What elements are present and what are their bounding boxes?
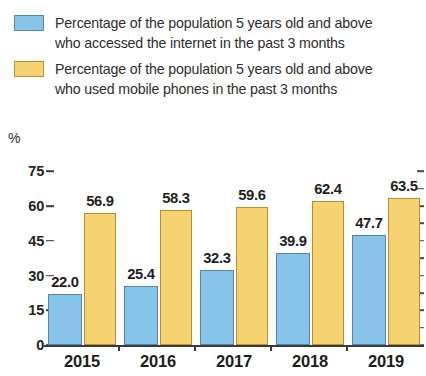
bar-value-label-mobile-2015: 56.9 bbox=[86, 193, 114, 209]
bars-layer: 22.056.9201525.458.3201632.359.6201739.9… bbox=[0, 112, 426, 376]
bar-mobile-2019 bbox=[388, 198, 420, 345]
bar-internet-2018 bbox=[276, 253, 310, 345]
legend-item-mobile: Percentage of the population 5 years old… bbox=[14, 59, 426, 99]
chart-legend: Percentage of the population 5 years old… bbox=[0, 0, 426, 112]
bar-mobile-2015 bbox=[84, 213, 116, 345]
legend-swatch-blue-icon bbox=[14, 15, 44, 31]
legend-label-mobile: Percentage of the population 5 years old… bbox=[55, 59, 372, 99]
bar-mobile-2018 bbox=[312, 201, 344, 345]
bar-mobile-2016 bbox=[160, 210, 192, 345]
x-axis-group-tick bbox=[346, 345, 348, 351]
legend-label-internet-line1: Percentage of the population 5 years old… bbox=[55, 15, 372, 31]
bar-internet-2019 bbox=[352, 235, 386, 345]
bar-value-label-internet-2018: 39.9 bbox=[279, 233, 307, 249]
legend-swatch-yellow-icon bbox=[14, 61, 44, 77]
bar-value-label-internet-2015: 22.0 bbox=[51, 274, 79, 290]
x-axis-group-tick bbox=[270, 345, 272, 351]
bar-value-label-mobile-2016: 58.3 bbox=[162, 190, 190, 206]
legend-item-internet: Percentage of the population 5 years old… bbox=[14, 13, 426, 53]
legend-label-internet-line2: who accessed the internet in the past 3 … bbox=[55, 33, 372, 53]
bar-value-label-mobile-2019: 63.5 bbox=[390, 178, 418, 194]
legend-label-mobile-line1: Percentage of the population 5 years old… bbox=[55, 61, 372, 77]
bar-mobile-2017 bbox=[236, 207, 268, 345]
bar-value-label-mobile-2018: 62.4 bbox=[314, 181, 342, 197]
bar-value-label-mobile-2017: 59.6 bbox=[238, 187, 266, 203]
bar-chart-plot: % 01530456075 22.056.9201525.458.3201632… bbox=[0, 112, 426, 376]
x-axis-group-tick bbox=[118, 345, 120, 351]
bar-internet-2016 bbox=[124, 286, 158, 345]
legend-label-mobile-line2: who used mobile phones in the past 3 mon… bbox=[55, 79, 372, 99]
x-axis-label-2018: 2018 bbox=[292, 352, 328, 371]
x-axis-label-2015: 2015 bbox=[64, 352, 100, 371]
bar-value-label-internet-2016: 25.4 bbox=[127, 266, 155, 282]
bar-internet-2015 bbox=[48, 294, 82, 345]
x-axis-group-tick bbox=[194, 345, 196, 351]
bar-value-label-internet-2017: 32.3 bbox=[203, 250, 231, 266]
x-axis-label-2019: 2019 bbox=[368, 352, 404, 371]
bar-value-label-internet-2019: 47.7 bbox=[355, 215, 383, 231]
x-axis-label-2016: 2016 bbox=[140, 352, 176, 371]
x-axis-label-2017: 2017 bbox=[216, 352, 252, 371]
legend-label-internet: Percentage of the population 5 years old… bbox=[55, 13, 372, 53]
bar-internet-2017 bbox=[200, 270, 234, 345]
